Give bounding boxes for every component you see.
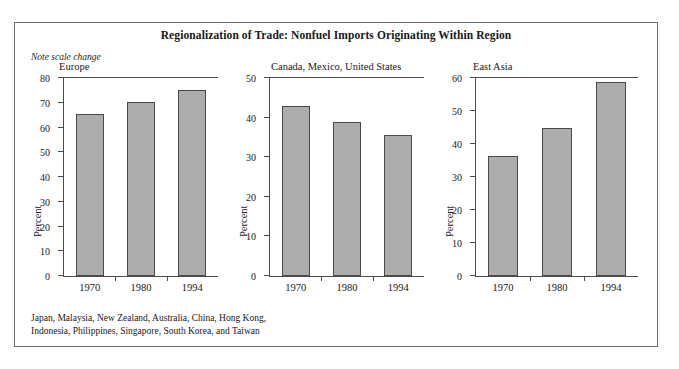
plot-area-nafta: 01020304050197019801994 [269, 77, 424, 277]
y-axis-tick-label: 20 [246, 191, 256, 202]
bar [384, 135, 412, 276]
y-axis-tick: 30 [58, 201, 64, 202]
y-axis-tick-label: 50 [452, 106, 462, 117]
y-axis-tick-label: 10 [452, 238, 462, 249]
y-axis-tick-label: 50 [246, 73, 256, 84]
x-axis-tick-label: 1994 [601, 282, 622, 293]
bar [127, 102, 155, 276]
plot-area-east-asia: 0102030405060197019801994 [475, 77, 638, 277]
y-axis-tick-label: 10 [40, 246, 50, 257]
plot-inner-europe: 01020304050607080197019801994 [64, 78, 218, 276]
y-axis-tick: 50 [264, 77, 270, 78]
y-axis-tick: 40 [264, 117, 270, 118]
x-axis-tick [167, 276, 168, 281]
y-axis-tick-label: 30 [452, 172, 462, 183]
y-axis-tick-label: 0 [251, 271, 256, 282]
y-axis-tick: 10 [58, 250, 64, 251]
x-axis-tick-label: 1980 [131, 282, 152, 293]
y-axis-tick: 10 [470, 242, 476, 243]
y-axis-tick-label: 50 [40, 147, 50, 158]
x-axis-tick [321, 276, 322, 281]
bar [333, 122, 361, 276]
x-axis-tick-label: 1994 [182, 282, 203, 293]
bar [76, 114, 104, 276]
y-axis-tick: 20 [264, 196, 270, 197]
x-axis-tick-label: 1994 [388, 282, 409, 293]
y-axis-tick-label: 70 [40, 97, 50, 108]
y-axis-tick: 70 [58, 102, 64, 103]
y-axis-tick: 0 [58, 275, 64, 276]
y-axis-tick: 80 [58, 77, 64, 78]
y-axis-tick-label: 80 [40, 73, 50, 84]
footnote-line-2: Indonesia, Philippines, Singapore, South… [31, 325, 266, 338]
y-axis-tick: 0 [264, 275, 270, 276]
y-axis-tick: 20 [58, 226, 64, 227]
figure-frame: Regionalization of Trade: Nonfuel Import… [14, 22, 658, 347]
bar [178, 90, 206, 276]
x-axis-tick [530, 276, 531, 281]
y-axis-tick: 50 [58, 151, 64, 152]
y-axis-tick-label: 60 [40, 122, 50, 133]
y-axis-tick: 0 [470, 275, 476, 276]
bar [488, 156, 517, 276]
y-axis-tick-label: 60 [452, 73, 462, 84]
y-axis-tick-label: 10 [246, 231, 256, 242]
bar [596, 82, 625, 276]
y-axis-tick: 10 [264, 235, 270, 236]
plot-inner-east-asia: 0102030405060197019801994 [476, 78, 638, 276]
footnote: Japan, Malaysia, New Zealand, Australia,… [31, 312, 266, 338]
chart-panel-nafta: Canada, Mexico, United States Percent 01… [237, 61, 427, 316]
footnote-line-1: Japan, Malaysia, New Zealand, Australia,… [31, 312, 266, 325]
y-axis-tick-label: 0 [457, 271, 462, 282]
y-axis-tick: 20 [470, 209, 476, 210]
y-axis-tick: 60 [470, 77, 476, 78]
y-axis-tick: 30 [264, 156, 270, 157]
chart-panel-europe: Europe Percent 0102030405060708019701980… [31, 61, 221, 316]
x-axis-tick-label: 1980 [337, 282, 358, 293]
y-axis-tick-label: 40 [452, 139, 462, 150]
panel-title-nafta: Canada, Mexico, United States [271, 61, 401, 72]
x-axis-tick-label: 1970 [493, 282, 514, 293]
y-axis-tick-label: 20 [40, 221, 50, 232]
figure-title: Regionalization of Trade: Nonfuel Import… [15, 29, 657, 41]
bar [282, 106, 310, 276]
y-axis-tick-label: 0 [45, 271, 50, 282]
x-axis-tick-label: 1970 [79, 282, 100, 293]
x-axis-tick [373, 276, 374, 281]
plot-area-europe: 01020304050607080197019801994 [63, 77, 218, 277]
y-axis-tick: 40 [58, 176, 64, 177]
panel-title-europe: Europe [59, 61, 89, 72]
y-axis-tick: 50 [470, 110, 476, 111]
x-axis-tick [115, 276, 116, 281]
x-axis-tick-label: 1970 [285, 282, 306, 293]
x-axis-tick-label: 1980 [547, 282, 568, 293]
panel-title-east-asia: East Asia [473, 61, 512, 72]
y-axis-tick: 40 [470, 143, 476, 144]
x-axis-tick [584, 276, 585, 281]
plot-inner-nafta: 01020304050197019801994 [270, 78, 424, 276]
y-axis-tick-label: 30 [246, 152, 256, 163]
y-axis-tick-label: 40 [246, 112, 256, 123]
y-axis-tick: 60 [58, 127, 64, 128]
y-axis-tick: 30 [470, 176, 476, 177]
y-axis-tick-label: 40 [40, 172, 50, 183]
bar [542, 128, 571, 276]
chart-panel-east-asia: East Asia Percent 0102030405060197019801… [443, 61, 643, 316]
y-axis-tick-label: 20 [452, 205, 462, 216]
y-axis-tick-label: 30 [40, 196, 50, 207]
